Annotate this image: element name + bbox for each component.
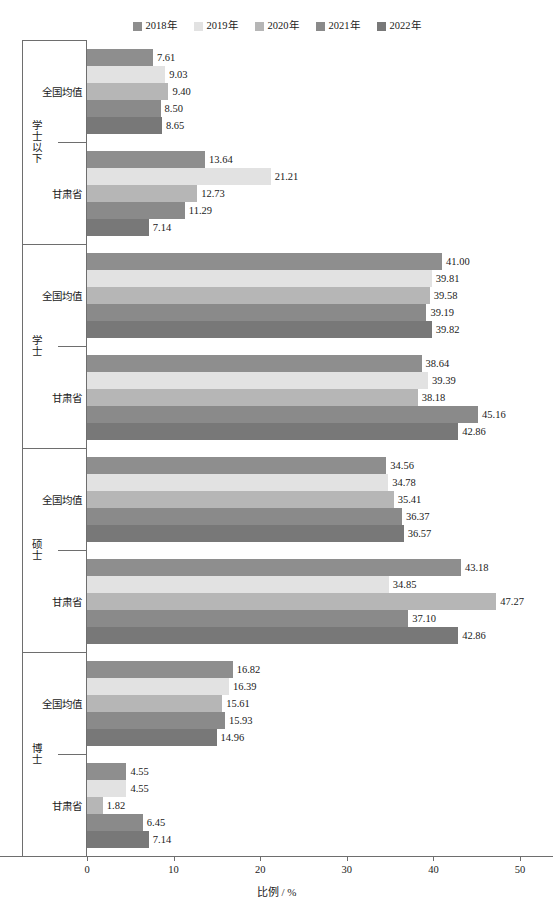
bar-value-label: 6.45 [147, 814, 165, 831]
bar [87, 270, 432, 287]
bar [87, 100, 161, 117]
subgroup-label-甘肃省: 甘肃省 [22, 798, 82, 813]
legend-item-2022年: 2022年 [377, 21, 421, 32]
bar-value-label: 34.78 [392, 474, 416, 491]
bar [87, 117, 162, 134]
x-tick-label: 10 [168, 864, 179, 875]
x-tick-50 [520, 856, 521, 861]
x-tick-10 [174, 856, 175, 861]
bar-value-label: 39.19 [430, 304, 454, 321]
bar [87, 202, 185, 219]
legend-swatch-icon [255, 22, 264, 31]
bar-value-label: 39.58 [434, 287, 458, 304]
bar-value-label: 39.82 [436, 321, 460, 338]
bar [87, 559, 461, 576]
chart-legend: 2018年2019年2020年2021年2022年 [0, 18, 553, 34]
bar-value-label: 1.82 [107, 797, 125, 814]
bar [87, 304, 426, 321]
bar-value-label: 13.64 [209, 151, 233, 168]
x-tick-40 [433, 856, 434, 861]
group-separator [22, 856, 87, 857]
bar-value-label: 42.86 [462, 627, 486, 644]
bar [87, 83, 168, 100]
legend-item-2019年: 2019年 [194, 21, 238, 32]
bar [87, 49, 153, 66]
bar [87, 253, 442, 270]
bar-value-label: 9.03 [169, 66, 187, 83]
bar-value-label: 21.21 [275, 168, 299, 185]
bar-value-label: 9.40 [172, 83, 190, 100]
x-tick-20 [260, 856, 261, 861]
group-separator [22, 40, 87, 41]
subgroup-label-甘肃省: 甘肃省 [22, 390, 82, 405]
x-tick-30 [347, 856, 348, 861]
bar-value-label: 45.16 [482, 406, 506, 423]
bar-value-label: 7.14 [153, 219, 171, 236]
bar [87, 372, 428, 389]
bar [87, 168, 271, 185]
bar [87, 729, 217, 746]
bar-value-label: 7.61 [157, 49, 175, 66]
subgroup-label-甘肃省: 甘肃省 [22, 594, 82, 609]
group-label-学士: 学士 [24, 318, 40, 374]
bar-value-label: 14.96 [221, 729, 245, 746]
group-separator [22, 244, 87, 245]
subgroup-separator [58, 550, 87, 551]
bar [87, 627, 458, 644]
legend-swatch-icon [133, 22, 142, 31]
bar-value-label: 41.00 [446, 253, 470, 270]
bar [87, 287, 430, 304]
bar-value-label: 42.86 [462, 423, 486, 440]
bar [87, 712, 225, 729]
bar [87, 661, 233, 678]
subgroup-label-甘肃省: 甘肃省 [22, 186, 82, 201]
bar-value-label: 4.55 [130, 780, 148, 797]
legend-swatch-icon [194, 22, 203, 31]
group-label-硕士: 硕士 [24, 522, 40, 578]
bar-value-label: 35.41 [398, 491, 422, 508]
x-tick-label: 40 [428, 864, 439, 875]
legend-label: 2020年 [268, 21, 299, 32]
subgroup-label-全国均值: 全国均值 [22, 696, 82, 711]
bar [87, 831, 149, 848]
legend-item-2021年: 2021年 [316, 21, 360, 32]
bar-value-label: 39.39 [432, 372, 456, 389]
bar-value-label: 34.85 [393, 576, 417, 593]
bar [87, 151, 205, 168]
subgroup-separator [58, 142, 87, 143]
legend-item-2020年: 2020年 [255, 21, 299, 32]
bar [87, 780, 126, 797]
bar [87, 678, 229, 695]
bar-value-label: 12.73 [201, 185, 225, 202]
subgroup-label-全国均值: 全国均值 [22, 84, 82, 99]
x-tick-0 [87, 856, 88, 861]
bar [87, 797, 103, 814]
bar-value-label: 38.18 [422, 389, 446, 406]
bar-value-label: 16.39 [233, 678, 257, 695]
x-tick-label: 20 [255, 864, 266, 875]
bar-value-label: 47.27 [500, 593, 524, 610]
bar-value-label: 38.64 [426, 355, 450, 372]
group-separator [22, 448, 87, 449]
bar [87, 321, 432, 338]
bar [87, 763, 126, 780]
legend-label: 2022年 [390, 21, 421, 32]
bar-value-label: 36.57 [408, 525, 432, 542]
bar [87, 610, 408, 627]
bar-value-label: 36.37 [406, 508, 430, 525]
bar-value-label: 15.61 [226, 695, 250, 712]
bar [87, 219, 149, 236]
subgroup-label-全国均值: 全国均值 [22, 492, 82, 507]
legend-swatch-icon [316, 22, 325, 31]
bar-value-label: 8.50 [165, 100, 183, 117]
x-tick-label: 50 [515, 864, 526, 875]
bar [87, 66, 165, 83]
bar [87, 389, 418, 406]
bar [87, 525, 404, 542]
legend-label: 2019年 [207, 21, 238, 32]
legend-label: 2021年 [329, 21, 360, 32]
group-label-博士: 博士 [24, 726, 40, 782]
bar [87, 508, 402, 525]
bar [87, 355, 422, 372]
bar [87, 474, 388, 491]
